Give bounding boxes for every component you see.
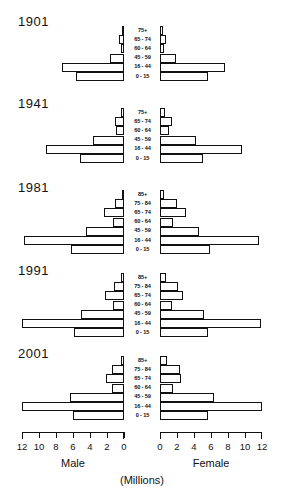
female-tick-label: 10 — [240, 441, 251, 452]
pyramid-row: 0 - 15 — [0, 411, 284, 420]
pyramid-row: 65 - 74 — [0, 374, 284, 383]
pyramid-panel-1901: 190175+65 - 7460 - 6445 - 5916 - 440 - 1… — [0, 14, 284, 91]
bar-female-75-84 — [160, 282, 178, 291]
age-group-label: 65 - 74 — [125, 293, 161, 299]
pyramid-row: 75+ — [0, 108, 284, 117]
bar-male-65-74 — [119, 35, 124, 44]
bar-female-60-64 — [160, 301, 172, 310]
age-group-label: 75+ — [125, 110, 161, 116]
female-tick-label: 6 — [208, 441, 213, 452]
age-group-label: 0 - 15 — [125, 413, 161, 419]
bar-male-45-59 — [93, 136, 124, 145]
male-axis-title: Male — [61, 457, 85, 469]
age-group-label: 16 - 44 — [125, 65, 161, 71]
age-group-label: 0 - 15 — [125, 330, 161, 336]
bar-male-75-84 — [112, 365, 124, 374]
pyramid-row: 75 - 84 — [0, 199, 284, 208]
male-tick-label: 6 — [70, 441, 75, 452]
pyramid-row: 65 - 74 — [0, 291, 284, 300]
pyramid-row: 75 - 84 — [0, 282, 284, 291]
bar-male-65-74 — [104, 208, 124, 217]
pyramid-row: 60 - 64 — [0, 126, 284, 135]
bar-male-16-44 — [62, 63, 124, 72]
pyramid-row: 45 - 59 — [0, 136, 284, 145]
bar-female-45-59 — [160, 310, 204, 319]
pyramid-row: 85+ — [0, 273, 284, 282]
pyramid-row: 45 - 59 — [0, 227, 284, 236]
pyramid-row: 45 - 59 — [0, 54, 284, 63]
pyramid-row: 0 - 15 — [0, 328, 284, 337]
bar-male-16-44 — [24, 236, 124, 245]
pyramid-row: 16 - 44 — [0, 402, 284, 411]
age-group-label: 16 - 44 — [125, 238, 161, 244]
age-group-label: 60 - 64 — [125, 46, 161, 52]
population-pyramid-chart: 190175+65 - 7460 - 6445 - 5916 - 440 - 1… — [0, 0, 284, 501]
bar-female-45-59 — [160, 393, 214, 402]
male-tick-label: 8 — [53, 441, 58, 452]
bar-male-85+ — [121, 356, 124, 365]
age-group-label: 16 - 44 — [125, 321, 161, 327]
bar-female-16-44 — [160, 319, 261, 328]
bar-male-0-15 — [80, 154, 124, 163]
bar-male-65-74 — [115, 117, 124, 126]
pyramid-panel-1981: 198185+75 - 8465 - 7460 - 6445 - 5916 - … — [0, 180, 284, 266]
age-group-label: 16 - 44 — [125, 404, 161, 410]
pyramid-panel-2001: 200185+75 - 8465 - 7460 - 6445 - 5916 - … — [0, 346, 284, 432]
bar-male-45-59 — [86, 227, 124, 236]
male-tick-label: 10 — [34, 441, 45, 452]
age-group-label: 65 - 74 — [125, 376, 161, 382]
bar-male-60-64 — [113, 301, 124, 310]
pyramid-row: 0 - 15 — [0, 245, 284, 254]
pyramid-row: 16 - 44 — [0, 145, 284, 154]
age-group-label: 85+ — [125, 192, 161, 198]
age-group-label: 85+ — [125, 275, 161, 281]
bar-female-45-59 — [160, 54, 176, 63]
male-tick-label: 0 — [121, 441, 126, 452]
pyramid-row: 65 - 74 — [0, 208, 284, 217]
female-axis-tick — [211, 432, 212, 438]
female-axis-tick — [160, 432, 161, 438]
female-axis-tick — [228, 432, 229, 438]
bar-female-16-44 — [160, 63, 225, 72]
bar-female-0-15 — [160, 328, 208, 337]
pyramid-row: 16 - 44 — [0, 236, 284, 245]
female-tick-label: 12 — [257, 441, 268, 452]
bar-male-60-64 — [121, 44, 124, 53]
bar-female-60-64 — [160, 126, 169, 135]
bar-male-16-44 — [22, 319, 124, 328]
female-tick-label: 2 — [174, 441, 179, 452]
male-tick-label: 4 — [87, 441, 92, 452]
bar-female-60-64 — [160, 44, 164, 53]
age-group-label: 45 - 59 — [125, 312, 161, 318]
bar-female-75-84 — [160, 365, 180, 374]
pyramid-row: 65 - 74 — [0, 35, 284, 44]
pyramid-panel-1991: 199185+75 - 8465 - 7460 - 6445 - 5916 - … — [0, 263, 284, 349]
age-group-label: 45 - 59 — [125, 137, 161, 143]
bar-female-65-74 — [160, 374, 181, 383]
age-group-label: 75 - 84 — [125, 367, 161, 373]
bar-male-65-74 — [106, 374, 124, 383]
bar-male-60-64 — [116, 126, 124, 135]
bar-female-65-74 — [160, 35, 166, 44]
male-axis-tick — [56, 432, 57, 438]
bar-male-16-44 — [22, 402, 124, 411]
bar-male-0-15 — [73, 411, 124, 420]
pyramid-row: 60 - 64 — [0, 384, 284, 393]
bar-female-0-15 — [160, 411, 208, 420]
pyramid-panel-1941: 194175+65 - 7460 - 6445 - 5916 - 440 - 1… — [0, 96, 284, 173]
bar-female-45-59 — [160, 136, 196, 145]
pyramid-row: 75 - 84 — [0, 365, 284, 374]
pyramid-row: 0 - 15 — [0, 72, 284, 81]
bar-male-0-15 — [71, 245, 124, 254]
female-axis-tick — [245, 432, 246, 438]
pyramid-row: 60 - 64 — [0, 44, 284, 53]
bar-female-16-44 — [160, 145, 242, 154]
bar-female-65-74 — [160, 208, 186, 217]
bar-male-0-15 — [74, 328, 124, 337]
bar-female-0-15 — [160, 154, 203, 163]
bar-male-45-59 — [110, 54, 124, 63]
female-axis-title: Female — [193, 457, 230, 469]
bar-female-65-74 — [160, 117, 172, 126]
pyramid-row: 45 - 59 — [0, 393, 284, 402]
female-tick-label: 0 — [157, 441, 162, 452]
